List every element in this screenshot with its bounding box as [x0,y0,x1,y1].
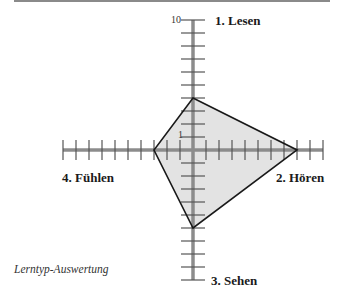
tick-label-one: 1 [178,129,183,140]
axis-label-sehen: 3. Sehen [211,273,257,289]
axis-label-fuehlen: 4. Fühlen [62,170,114,186]
radar-chart [0,0,342,295]
chart-caption: Lerntyp-Auswertung [14,263,109,275]
data-area [154,98,297,228]
axis-label-lesen: 1. Lesen [215,13,261,29]
tick-label-max: 10 [171,14,181,25]
axis-label-hoeren: 2. Hören [276,170,324,186]
